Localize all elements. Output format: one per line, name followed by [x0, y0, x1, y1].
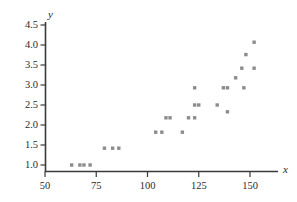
- data-point: [193, 103, 196, 106]
- y-tick-label: 4.5: [6, 20, 38, 31]
- axes-group: [45, 22, 278, 172]
- x-tick-label: 50: [29, 181, 61, 192]
- x-tick-label: 100: [132, 181, 164, 192]
- data-point: [70, 163, 73, 166]
- data-point: [240, 67, 243, 70]
- data-point: [103, 147, 106, 150]
- data-point: [222, 86, 225, 89]
- y-tick-label: 3.0: [6, 80, 38, 91]
- y-tick-label: 2.0: [6, 120, 38, 131]
- data-point: [160, 131, 163, 134]
- y-tick-label: 3.5: [6, 60, 38, 71]
- data-point: [193, 86, 196, 89]
- data-point: [252, 41, 255, 44]
- data-point: [168, 116, 171, 119]
- data-point: [242, 86, 245, 89]
- y-tick-label: 1.5: [6, 140, 38, 151]
- data-point: [181, 131, 184, 134]
- plot-canvas: [0, 0, 297, 202]
- data-point: [111, 147, 114, 150]
- y-tick-label: 2.5: [6, 100, 38, 111]
- data-point: [234, 76, 237, 79]
- data-point: [154, 131, 157, 134]
- data-point: [197, 103, 200, 106]
- y-tick-label: 4.0: [6, 40, 38, 51]
- data-point: [216, 103, 219, 106]
- data-point: [78, 163, 81, 166]
- y-axis-label: y: [48, 9, 53, 20]
- data-point: [226, 110, 229, 113]
- data-point: [193, 116, 196, 119]
- x-tick-label: 125: [183, 181, 215, 192]
- x-tick-marks: [45, 172, 250, 178]
- data-point: [187, 116, 190, 119]
- x-tick-label: 150: [234, 181, 266, 192]
- x-axis-label: x: [283, 164, 288, 175]
- data-point: [244, 53, 247, 56]
- data-point-group: [70, 41, 256, 167]
- y-tick-label: 1.0: [6, 160, 38, 171]
- data-point: [88, 163, 91, 166]
- scatter-chart: 1.01.52.02.53.03.54.04.5 5075100125150 x…: [0, 0, 297, 202]
- data-point: [82, 163, 85, 166]
- data-point: [117, 147, 120, 150]
- data-point: [252, 67, 255, 70]
- data-point: [164, 116, 167, 119]
- x-tick-label: 75: [80, 181, 112, 192]
- data-point: [226, 86, 229, 89]
